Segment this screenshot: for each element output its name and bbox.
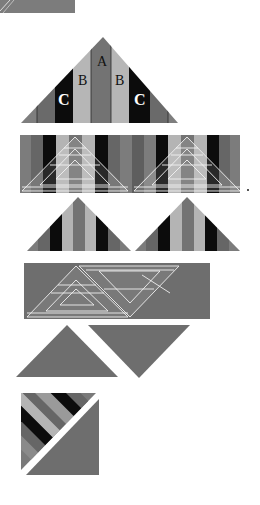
label-c-left: C xyxy=(58,91,70,109)
label-b-right: B xyxy=(115,73,124,89)
stray-mark xyxy=(247,189,249,191)
partial-strip-band xyxy=(0,0,76,14)
strip-band-with-rulers xyxy=(20,135,240,193)
half-square-triangle-unit xyxy=(20,392,100,476)
label-c-right: C xyxy=(134,91,146,109)
cut-striped-triangle-left xyxy=(26,196,132,252)
label-a: A xyxy=(97,54,107,70)
labeled-strip-triangle: A B B C C xyxy=(20,36,180,126)
cut-striped-triangle-right xyxy=(134,196,241,252)
solid-band-with-rulers xyxy=(24,263,210,319)
label-b-left: B xyxy=(78,73,87,89)
solid-triangle-inverted xyxy=(87,324,191,379)
